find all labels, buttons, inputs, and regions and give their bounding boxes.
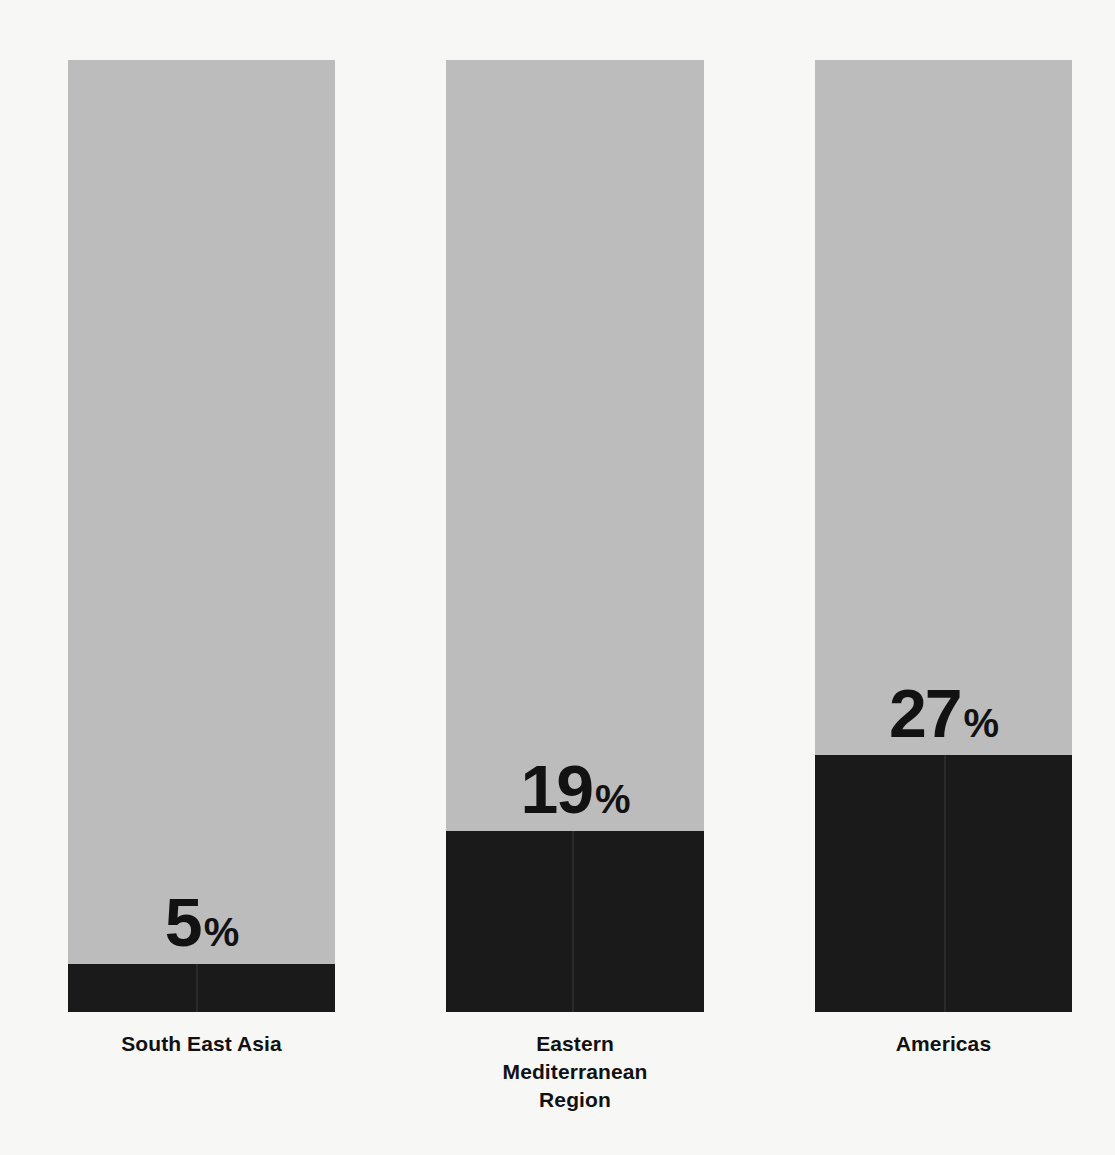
category-label-eastern-mediterranean-region: Eastern Mediterranean Region <box>422 1030 728 1114</box>
value-number: 27 <box>889 675 961 751</box>
category-label-line: Region <box>422 1086 728 1114</box>
category-label-line: Eastern <box>422 1030 728 1058</box>
bar-group-americas: 27% Americas <box>815 0 1072 1155</box>
bar-group-south-east-asia: 5% South East Asia <box>68 0 335 1155</box>
category-label-south-east-asia: South East Asia <box>44 1030 359 1058</box>
percent-symbol: % <box>595 777 630 821</box>
bar-track[interactable] <box>815 60 1072 1012</box>
percent-symbol: % <box>204 910 239 954</box>
scan-seam <box>944 755 946 1012</box>
value-label: 5% <box>68 888 335 956</box>
bar-fill-segment <box>815 755 1072 1012</box>
percent-symbol: % <box>964 701 999 745</box>
scan-seam <box>572 831 574 1012</box>
scan-seam <box>196 964 198 1012</box>
value-label: 27% <box>815 679 1072 747</box>
bar-fill-segment <box>68 964 335 1012</box>
value-number: 5 <box>165 884 201 960</box>
bar-group-eastern-mediterranean-region: 19% Eastern Mediterranean Region <box>446 0 704 1155</box>
category-label-americas: Americas <box>791 1030 1096 1058</box>
stacked-bar-chart: 5% South East Asia 19% Eastern Mediterra… <box>0 0 1115 1155</box>
category-label-line: Mediterranean <box>422 1058 728 1086</box>
value-label: 19% <box>446 755 704 823</box>
value-number: 19 <box>520 751 592 827</box>
bar-fill-segment <box>446 831 704 1012</box>
bar-track[interactable] <box>446 60 704 1012</box>
bar-track[interactable] <box>68 60 335 1012</box>
category-label-line: Americas <box>791 1030 1096 1058</box>
category-label-line: South East Asia <box>44 1030 359 1058</box>
